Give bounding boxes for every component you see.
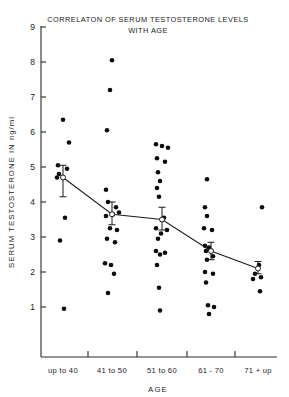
data-point bbox=[259, 275, 264, 280]
y-tick-label: 9 bbox=[30, 22, 35, 32]
mean-marker bbox=[61, 175, 66, 180]
data-point bbox=[113, 240, 118, 245]
data-point bbox=[104, 214, 109, 219]
data-point bbox=[55, 175, 60, 180]
data-point bbox=[156, 236, 161, 241]
data-point bbox=[210, 228, 215, 233]
mean-marker bbox=[256, 266, 261, 271]
x-category-label-4: 71 + up bbox=[244, 366, 272, 375]
data-point bbox=[202, 226, 207, 231]
x-category-label-0: up to 40 bbox=[48, 366, 78, 375]
data-point bbox=[163, 250, 168, 255]
data-point bbox=[67, 140, 72, 145]
data-point bbox=[251, 277, 256, 282]
testosterone-age-scatter-figure: CORRELATON OF SERUM TESTOSTERONE LEVELS … bbox=[0, 0, 289, 397]
x-axis-category-labels: up to 4041 to 5051 to 6061 - 7071 + up bbox=[48, 366, 272, 375]
data-point bbox=[117, 210, 122, 215]
data-point bbox=[115, 228, 120, 233]
data-point bbox=[212, 305, 217, 310]
data-point bbox=[108, 226, 113, 231]
chart-title: CORRELATON OF SERUM TESTOSTERONE LEVELS … bbox=[47, 15, 248, 35]
data-point bbox=[158, 252, 163, 257]
data-point bbox=[163, 159, 168, 164]
y-tick-label: 6 bbox=[30, 127, 35, 137]
data-point bbox=[105, 128, 110, 133]
x-category-label-3: 61 - 70 bbox=[198, 366, 224, 375]
y-tick-label: 2 bbox=[30, 267, 35, 277]
y-axis-ticks: 123456789 bbox=[30, 22, 46, 312]
data-point bbox=[155, 263, 160, 268]
y-tick-label: 5 bbox=[30, 162, 35, 172]
y-tick-label: 1 bbox=[30, 302, 35, 312]
data-point bbox=[205, 214, 210, 219]
data-point bbox=[58, 238, 63, 243]
chart-canvas: CORRELATON OF SERUM TESTOSTERONE LEVELS … bbox=[0, 0, 289, 397]
data-point bbox=[157, 285, 162, 290]
x-axis-label: AGE bbox=[148, 385, 168, 394]
data-point bbox=[260, 205, 265, 210]
data-point bbox=[155, 186, 160, 191]
data-point bbox=[65, 166, 70, 171]
data-point bbox=[159, 231, 164, 236]
y-tick-label: 4 bbox=[30, 197, 35, 207]
data-point bbox=[61, 117, 66, 122]
data-point bbox=[154, 249, 159, 254]
data-point bbox=[166, 145, 171, 150]
chart-title-line-1: CORRELATON OF SERUM TESTOSTERONE LEVELS bbox=[47, 15, 248, 24]
data-point bbox=[155, 156, 160, 161]
data-point bbox=[258, 289, 263, 294]
data-point bbox=[108, 88, 113, 93]
data-point bbox=[105, 236, 110, 241]
mean-marker bbox=[160, 217, 165, 222]
data-point bbox=[110, 58, 115, 63]
data-point bbox=[103, 261, 108, 266]
x-axis-ticks bbox=[88, 351, 235, 357]
x-category-label-2: 51 to 60 bbox=[147, 366, 177, 375]
data-point bbox=[112, 271, 117, 276]
mean-marker bbox=[209, 249, 214, 254]
data-point bbox=[204, 280, 209, 285]
data-point bbox=[158, 179, 163, 184]
data-point bbox=[206, 303, 211, 308]
data-point bbox=[62, 306, 67, 311]
data-point bbox=[109, 263, 114, 268]
x-category-label-1: 41 to 50 bbox=[97, 366, 127, 375]
y-axis-label: SERUM TESTOSTERONE IN ng/ml bbox=[7, 116, 16, 268]
data-point bbox=[154, 142, 159, 147]
data-point bbox=[157, 194, 162, 199]
chart-title-line-2: WITH AGE bbox=[128, 26, 168, 35]
data-point bbox=[104, 187, 109, 192]
data-point bbox=[114, 205, 119, 210]
mean-marker bbox=[110, 212, 115, 217]
y-tick-label: 3 bbox=[30, 232, 35, 242]
data-point bbox=[207, 312, 212, 317]
data-point bbox=[160, 144, 165, 149]
data-point bbox=[203, 205, 208, 210]
data-point bbox=[154, 226, 159, 231]
y-tick-label: 8 bbox=[30, 57, 35, 67]
data-point bbox=[203, 270, 208, 275]
y-tick-label: 7 bbox=[30, 92, 35, 102]
data-point bbox=[156, 170, 161, 175]
data-point bbox=[63, 215, 68, 220]
data-point bbox=[106, 291, 111, 296]
data-points-layer bbox=[55, 58, 265, 316]
data-point bbox=[205, 177, 210, 182]
data-point bbox=[158, 308, 163, 313]
data-point bbox=[211, 271, 216, 276]
